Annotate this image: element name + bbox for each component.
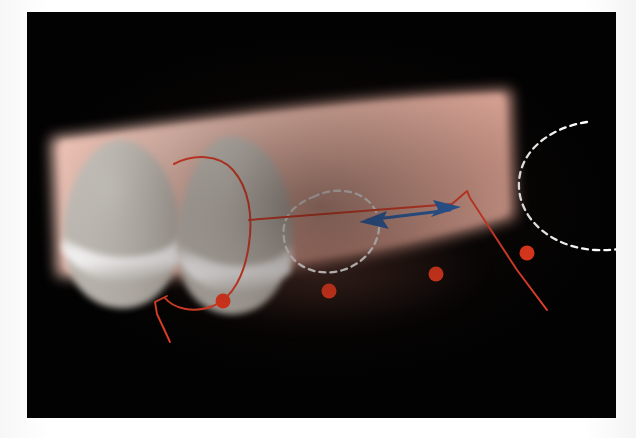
marker-dot-4 [520,246,535,261]
red-outline-tail [155,296,170,342]
page-canvas [0,0,636,438]
marker-dot-2 [322,284,337,299]
ghost-tooth-circle-right [519,122,616,250]
marker-dot-3 [429,267,444,282]
clinical-photograph-plate [27,12,616,418]
annotation-overlay [27,12,616,418]
marker-dot-1 [216,294,231,309]
edentulous-span-arrow [359,200,461,229]
arrow-head-right [431,200,461,217]
arrow-head-left [359,211,389,229]
ghost-tooth-circle-center [283,191,379,273]
caption-strip [0,424,636,438]
red-tooth-outline [165,157,250,310]
